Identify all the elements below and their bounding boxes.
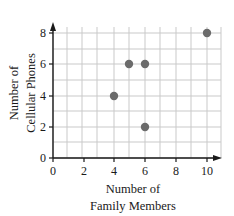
y-tick-label-8: 8 (40, 26, 46, 40)
y-tick-label-4: 4 (40, 89, 46, 103)
y-axis-title-line-1: Number of (7, 65, 21, 120)
y-axis-title-line-2: Cellular Phones (24, 53, 38, 133)
data-point (110, 92, 118, 100)
x-axis (53, 155, 222, 162)
y-tick-label-2: 2 (40, 120, 46, 134)
y-axis-title: Number of Cellular Phones (7, 53, 38, 133)
x-tick-label-6: 6 (142, 164, 148, 178)
x-axis-title-line-2: Family Members (90, 199, 176, 213)
grid-lines (53, 27, 221, 158)
scatter-plot-figure: 0 2 4 6 8 0 2 4 6 8 10 Number of Family … (0, 0, 234, 216)
x-axis-title-line-1: Number of (106, 182, 161, 196)
x-tick-label-8: 8 (173, 164, 179, 178)
x-axis-title: Number of Family Members (90, 182, 176, 213)
data-point (125, 60, 133, 68)
y-axis-arrow-icon (50, 22, 56, 31)
chart-canvas: 0 2 4 6 8 0 2 4 6 8 10 Number of Family … (0, 0, 234, 216)
y-tick-label-0: 0 (40, 151, 46, 165)
y-axis (49, 22, 56, 158)
x-tick-label-10: 10 (201, 164, 213, 178)
y-tick-label-6: 6 (40, 57, 46, 71)
x-tick-label-2: 2 (81, 164, 87, 178)
x-tick-labels: 0 2 4 6 8 10 (50, 164, 213, 178)
x-tick-label-0: 0 (50, 164, 56, 178)
x-tick-label-4: 4 (111, 164, 117, 178)
data-point (203, 29, 211, 37)
data-point (141, 60, 149, 68)
y-tick-labels: 0 2 4 6 8 (40, 26, 46, 165)
data-point (141, 123, 149, 131)
